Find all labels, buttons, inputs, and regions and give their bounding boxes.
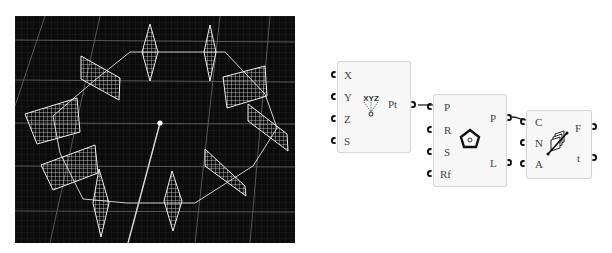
- center-point[interactable]: [157, 120, 162, 125]
- input-port-z[interactable]: [331, 115, 337, 122]
- xyz-point-icon: XYZ: [360, 92, 382, 118]
- input-port-c[interactable]: [520, 118, 526, 125]
- input-label-y: Y: [344, 91, 352, 103]
- input-port-r[interactable]: [427, 126, 433, 133]
- input-port-x[interactable]: [331, 71, 337, 78]
- grasshopper-canvas[interactable]: X Y Z S XYZ Pt P R S Rf P L C: [300, 0, 612, 253]
- input-label-x: X: [344, 69, 352, 81]
- input-port-rf[interactable]: [427, 170, 433, 177]
- output-label-pt: Pt: [388, 98, 397, 110]
- input-port-s[interactable]: [331, 137, 337, 144]
- output-label-p: P: [490, 112, 496, 124]
- output-port-pt[interactable]: [410, 101, 416, 108]
- pentagon-icon: [459, 128, 481, 150]
- input-label-a: A: [535, 158, 543, 170]
- output-label-f: F: [575, 122, 581, 134]
- input-label-z: Z: [344, 113, 351, 125]
- input-label-c: C: [535, 116, 542, 128]
- input-label-r: R: [444, 124, 451, 136]
- output-port-f[interactable]: [591, 123, 597, 130]
- construct-point-component[interactable]: X Y Z S XYZ Pt: [337, 61, 411, 153]
- frames-icon: [546, 130, 570, 156]
- output-port-l[interactable]: [506, 159, 512, 166]
- input-label-p: P: [444, 101, 450, 113]
- input-port-n[interactable]: [520, 139, 526, 146]
- rhino-viewport[interactable]: [15, 16, 295, 243]
- input-label-s: S: [444, 146, 450, 158]
- viewport-scene: [15, 16, 295, 243]
- divide-frames-component[interactable]: C N A F t: [526, 110, 592, 179]
- input-label-s: S: [344, 135, 350, 147]
- input-port-a[interactable]: [520, 160, 526, 167]
- input-port-y[interactable]: [331, 93, 337, 100]
- output-port-p[interactable]: [506, 114, 512, 121]
- input-label-n: N: [535, 137, 543, 149]
- input-label-rf: Rf: [440, 168, 451, 180]
- output-port-t[interactable]: [591, 154, 597, 161]
- input-port-s[interactable]: [427, 148, 433, 155]
- output-label-l: L: [490, 157, 497, 169]
- polygon-component[interactable]: P R S Rf P L: [433, 94, 507, 187]
- svg-text:XYZ: XYZ: [363, 94, 379, 103]
- input-port-p[interactable]: [427, 103, 433, 110]
- output-label-t: t: [577, 152, 580, 164]
